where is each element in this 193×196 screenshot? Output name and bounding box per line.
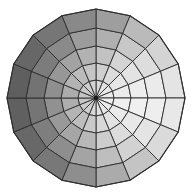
- polar-center-dot-layer: [94, 96, 98, 100]
- polar-heatmap-figure: Polar sector heatmap with 5 concentric r…: [0, 0, 193, 196]
- polar-center-dot: [94, 96, 98, 100]
- polar-chart-svg: [0, 0, 193, 196]
